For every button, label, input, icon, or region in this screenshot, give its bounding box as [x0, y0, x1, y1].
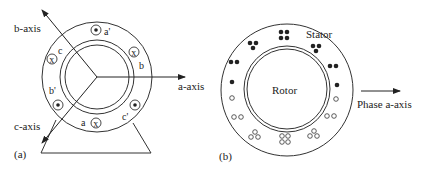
phase-a-axis-label: Phase a-axis — [357, 98, 412, 110]
panel-label-b: (b) — [219, 150, 232, 163]
figure-a: a-axis b-axis c-axis a' x b c' x a — [14, 10, 204, 161]
conductor-label-b-prime: b' — [49, 85, 56, 96]
b-axis-label: b-axis — [14, 22, 41, 34]
figure-b: Stator Rotor Phase a-axis — [219, 24, 412, 163]
a-axis-label: a-axis — [178, 80, 204, 92]
rotor-label: Rotor — [272, 84, 297, 96]
x-glyph: x — [131, 47, 136, 58]
x-glyph: x — [49, 54, 54, 65]
conductor-label-c: c — [58, 45, 63, 56]
conductor-label-b: b — [139, 60, 144, 71]
panel-label-a: (a) — [14, 148, 27, 161]
conductor-label-a: a — [81, 117, 86, 128]
conductor-label-a-prime: a' — [104, 26, 110, 37]
x-glyph: x — [93, 118, 98, 129]
stator-label: Stator — [306, 28, 333, 40]
diagram-canvas: a-axis b-axis c-axis a' x b c' x a — [0, 0, 422, 175]
conductor-label-c-prime: c' — [122, 111, 128, 122]
c-axis-label: c-axis — [14, 120, 40, 132]
